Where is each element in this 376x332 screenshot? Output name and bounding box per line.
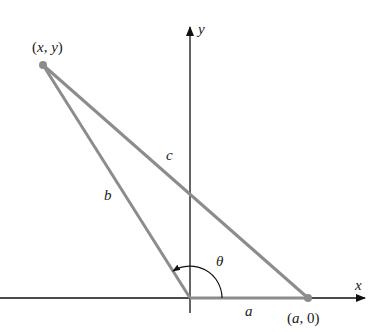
side-a-label: a	[245, 303, 253, 319]
point-a0-label: (a, 0)	[287, 310, 320, 327]
point-xy-label: (x, y)	[32, 39, 63, 56]
triangle-diagram: y x (x, y) (a, 0) c b a θ	[0, 0, 376, 332]
side-c-label: c	[166, 147, 173, 163]
side-c	[43, 65, 308, 298]
diagram-svg: y x (x, y) (a, 0) c b a θ	[0, 0, 376, 332]
point-a0	[304, 294, 312, 302]
y-axis-label: y	[196, 21, 205, 37]
side-b	[43, 65, 190, 298]
angle-theta-label: θ	[216, 253, 224, 269]
x-axis-label: x	[354, 277, 362, 293]
point-xy	[39, 61, 47, 69]
side-b-label: b	[104, 187, 112, 203]
